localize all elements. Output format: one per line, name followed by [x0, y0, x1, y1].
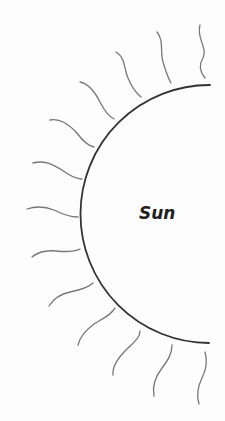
sun-ray-icon [27, 207, 78, 217]
sun-ray-icon [50, 120, 94, 147]
sun-ray-icon [198, 352, 207, 404]
sun-label: Sun [139, 203, 175, 223]
sun-ray-icon [32, 249, 80, 257]
sun-rays [27, 25, 206, 404]
sun-ray-icon [78, 308, 115, 345]
sun-ray-icon [33, 162, 82, 179]
sun-ray-icon [157, 32, 171, 83]
sun-ray-icon [153, 345, 172, 396]
sun-ray-icon [80, 82, 114, 119]
sun-ray-icon [49, 283, 93, 306]
sun-ray-icon [113, 331, 140, 375]
sun-diagram [0, 0, 225, 421]
sun-ray-icon [199, 25, 205, 78]
sun-ray-icon [116, 52, 141, 97]
